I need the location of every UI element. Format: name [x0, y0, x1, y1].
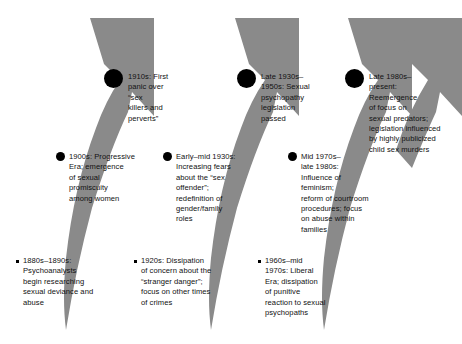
timeline-marker-icon [258, 260, 261, 263]
timeline-entry-late-1930s-1950s: Late 1930s– 1950s: Sexual psychopathy le… [237, 72, 313, 124]
timeline-entry-early-mid-1930s: Early–mid 1930s: Increasing fears about … [163, 152, 251, 225]
timeline-marker-icon [345, 69, 364, 88]
timeline-entry-1900s: 1900s: Progressive Era; emergence of sex… [56, 152, 150, 204]
timeline-entry-text: 1900s: Progressive Era; emergence of sex… [69, 152, 135, 204]
timeline-marker-icon [237, 69, 256, 88]
timeline-entry-text: 1960s–mid 1970s: Liberal Era; dissipatio… [265, 256, 325, 318]
timeline-entry-text: Early–mid 1930s: Increasing fears about … [176, 152, 235, 225]
timeline-marker-icon [288, 152, 297, 161]
timeline-entry-text: Late 1930s– 1950s: Sexual psychopathy le… [261, 72, 310, 124]
timeline-entry-mid-1970s-late-1980s: Mid 1970s– late 1980s: Influence of femi… [288, 152, 380, 235]
timeline-entry-1960s-mid-1970s: 1960s–mid 1970s: Liberal Era; dissipatio… [258, 256, 358, 318]
timeline-entry-text: 1880s–1890s: Psychoanalysts begin resear… [23, 256, 93, 308]
timeline-entry-1880s-1890s: 1880s–1890s: Psychoanalysts begin resear… [16, 256, 120, 308]
timeline-entry-late-1980s-present: Late 1980s– present: Reemergence of focu… [345, 72, 462, 155]
timeline-marker-icon [56, 152, 65, 161]
timeline-entry-text: Late 1980s– present: Reemergence of focu… [369, 72, 441, 155]
timeline-diagram: 1910s: First panic over “sex killers and… [0, 0, 462, 344]
timeline-marker-icon [163, 152, 172, 161]
timeline-entry-text: 1910s: First panic over “sex killers and… [128, 72, 178, 124]
timeline-marker-icon [104, 69, 123, 88]
timeline-entry-1920s: 1920s: Dissipation of concern about the … [134, 256, 244, 308]
timeline-marker-icon [16, 260, 19, 263]
timeline-entry-text: Mid 1970s– late 1980s: Influence of femi… [301, 152, 369, 235]
timeline-entry-text: 1920s: Dissipation of concern about the … [141, 256, 211, 308]
timeline-entry-1910s: 1910s: First panic over “sex killers and… [104, 72, 178, 124]
timeline-marker-icon [134, 260, 137, 263]
